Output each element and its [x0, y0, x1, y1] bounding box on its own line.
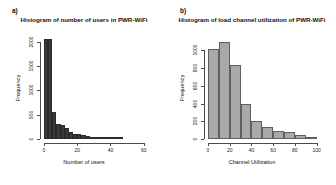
y-axis-tick [37, 42, 40, 43]
histogram-bar [295, 135, 306, 139]
y-axis-tick [37, 115, 40, 116]
y-axis-tick-label: 200 [192, 117, 198, 125]
x-axis-tick-label: 60 [270, 147, 276, 153]
y-axis-tick-label: 400 [192, 99, 198, 107]
panel-a-histogram-users: a) Histogram of number of users in PWR-W… [0, 0, 168, 185]
x-axis-tick [230, 143, 231, 146]
x-axis-tick-label: 100 [312, 147, 320, 153]
histogram-bar [241, 104, 252, 139]
x-axis-tick-label: 60 [141, 147, 147, 153]
panel-b-bars [208, 37, 322, 139]
histogram-bar [284, 132, 295, 139]
panel-b-plot-area [208, 37, 322, 139]
x-axis-tick [251, 143, 252, 146]
y-axis-tick-label: 500 [28, 111, 34, 119]
panel-label-b: b) [180, 7, 186, 15]
x-axis-tick [77, 143, 78, 146]
y-axis-tick [201, 121, 204, 122]
histogram-bar [251, 121, 262, 139]
y-axis-tick [201, 104, 204, 105]
y-axis-tick [201, 50, 204, 51]
y-axis-title: Frequency [15, 75, 22, 101]
y-axis-tick [37, 139, 40, 140]
y-axis-tick-label: 1000 [192, 45, 198, 56]
histogram-bar [219, 42, 230, 139]
x-axis-tick-label: 0 [207, 147, 210, 153]
x-axis-line [44, 143, 144, 144]
y-axis-tick-label: 1500 [28, 61, 34, 72]
histogram-bar [306, 137, 317, 139]
histogram-bar [273, 131, 284, 139]
panel-b-histogram-utilization: b) Histogram of load channel utilization… [168, 0, 336, 185]
y-axis-tick-label: 2000 [28, 36, 34, 47]
y-axis-tick-label: 1000 [28, 85, 34, 96]
y-axis-tick-label: 800 [192, 64, 198, 72]
x-axis-title: Number of users [0, 159, 168, 166]
y-axis-tick [37, 66, 40, 67]
x-axis-tick-label: 40 [249, 147, 255, 153]
x-axis-tick [208, 143, 209, 146]
panel-a-bars [44, 37, 152, 139]
y-axis-line [204, 50, 205, 139]
x-axis-tick [273, 143, 274, 146]
x-axis-tick-label: 20 [227, 147, 233, 153]
x-axis-tick [110, 143, 111, 146]
y-axis-tick [37, 90, 40, 91]
x-axis-tick [44, 143, 45, 146]
x-axis-tick-label: 80 [292, 147, 298, 153]
panel-b-title: Histogram of load channel utilization of… [168, 16, 336, 24]
y-axis-tick-label: 600 [192, 82, 198, 90]
y-axis-tick-label: 0 [28, 138, 34, 141]
panel-a-title: Histogram of number of users in PWR-WiFi [0, 16, 168, 24]
y-axis-tick [201, 68, 204, 69]
y-axis-tick [201, 139, 204, 140]
x-axis-tick [295, 143, 296, 146]
y-axis-tick [201, 86, 204, 87]
y-axis-tick-label: 0 [192, 138, 198, 141]
figure-container: a) Histogram of number of users in PWR-W… [0, 0, 336, 185]
x-axis-tick-label: 40 [108, 147, 114, 153]
x-axis-tick [144, 143, 145, 146]
histogram-bar [208, 49, 219, 139]
x-axis-tick-label: 0 [43, 147, 46, 153]
panel-a-plot-area [44, 37, 152, 139]
x-axis-tick [317, 143, 318, 146]
y-axis-title: Frequency [179, 75, 186, 101]
histogram-bar [230, 65, 241, 139]
x-axis-line [208, 143, 317, 144]
histogram-bar [119, 137, 123, 139]
y-axis-line [40, 42, 41, 139]
x-axis-title: Channel Utilization [168, 159, 336, 166]
histogram-bar [262, 127, 273, 139]
panel-label-a: a) [12, 7, 18, 15]
x-axis-tick-label: 20 [74, 147, 80, 153]
